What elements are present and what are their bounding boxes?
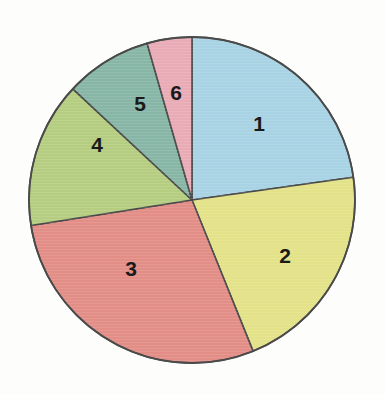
pie-slice-label-2: 2 — [279, 244, 291, 267]
pie-slice-label-1: 1 — [253, 112, 265, 135]
pie-slice-label-3: 3 — [125, 257, 137, 280]
pie-chart-svg: 123456 — [0, 0, 385, 395]
pie-slice-label-6: 6 — [170, 81, 182, 104]
pie-slice-label-5: 5 — [134, 92, 146, 115]
pie-slice-label-4: 4 — [91, 133, 103, 156]
pie-chart-figure: 123456 — [0, 0, 385, 395]
pie-slice-1 — [192, 37, 353, 200]
pie-slices-group — [29, 37, 355, 363]
